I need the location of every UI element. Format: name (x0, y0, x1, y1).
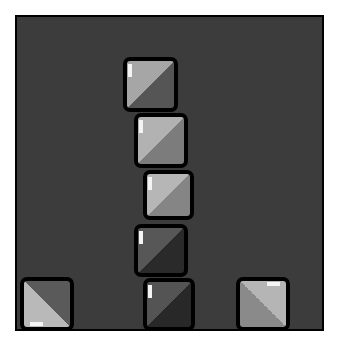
block-3[interactable] (143, 170, 194, 220)
highlight-glint (148, 285, 152, 298)
highlight-glint (139, 120, 143, 133)
block-bottom-right[interactable] (236, 277, 290, 331)
highlight-glint (30, 322, 43, 326)
block-2[interactable] (134, 113, 188, 168)
block-bottom-left[interactable] (20, 277, 74, 331)
highlight-glint (148, 177, 152, 190)
highlight-glint (139, 231, 143, 244)
highlight-glint (128, 64, 132, 77)
block-bottom-center[interactable] (143, 278, 195, 331)
block-top[interactable] (123, 57, 178, 112)
highlight-glint (267, 282, 280, 286)
block-4[interactable] (134, 224, 188, 277)
